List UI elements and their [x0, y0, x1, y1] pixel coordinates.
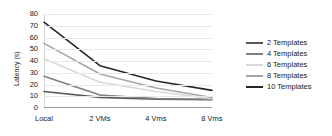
legend-label: 8 Templates [267, 72, 307, 80]
legend-swatch-icon [246, 86, 263, 88]
legend-label: 6 Templates [267, 61, 307, 69]
legend-swatch-icon [246, 42, 263, 44]
legend-swatch-icon [246, 75, 263, 77]
legend-swatch-icon [246, 53, 263, 55]
x-tick-label: Local [35, 114, 53, 123]
legend-item[interactable]: 8 Templates [246, 70, 332, 81]
legend-item[interactable]: 6 Templates [246, 59, 332, 70]
legend-item[interactable]: 4 Templates [246, 48, 332, 59]
x-tick-label: 8 Vms [201, 114, 222, 123]
legend-swatch-icon [246, 64, 263, 66]
legend-label: 10 Templates [267, 83, 311, 91]
chart-container: Latency (s) 01020304050607080 Local2 VMs… [0, 0, 332, 136]
legend-label: 4 Templates [267, 50, 307, 58]
x-tick-label: 4 Vms [145, 114, 166, 123]
legend-label: 2 Templates [267, 39, 307, 47]
legend-item[interactable]: 10 Templates [246, 81, 332, 92]
x-tick-label: 2 VMs [89, 114, 110, 123]
chart-legend: 2 Templates4 Templates6 Templates8 Templ… [246, 37, 332, 92]
legend-item[interactable]: 2 Templates [246, 37, 332, 48]
